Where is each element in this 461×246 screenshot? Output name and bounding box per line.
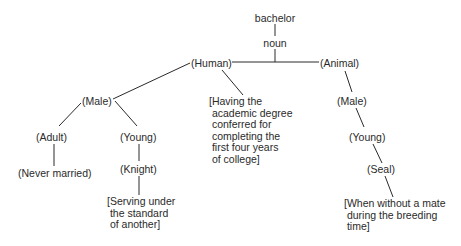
semantic-tree-diagram: bachelor noun (Human) (Animal) (Male) (A… (0, 0, 461, 246)
edge-male-adult (59, 103, 81, 126)
node-noun: noun (263, 37, 286, 49)
edge-male-young (115, 101, 137, 126)
node-never-married: (Never married) (18, 167, 92, 179)
node-human-male: (Male) (82, 95, 112, 107)
gloss-without-mate: [When without a mate during the breeding… (344, 198, 446, 233)
node-seal: (Seal) (367, 163, 395, 175)
edge-animal-male (345, 71, 352, 92)
edge-animal-male-young (356, 108, 364, 127)
node-animal: (Animal) (320, 57, 359, 69)
edge-human-having (222, 70, 243, 95)
node-human-young: (Young) (120, 131, 156, 143)
node-adult: (Adult) (36, 131, 67, 143)
gloss-serving: [Serving under the standard of another] (107, 196, 175, 231)
node-bachelor: bachelor (255, 12, 295, 24)
edge-young-seal (373, 144, 382, 163)
node-animal-male: (Male) (337, 95, 367, 107)
node-knight: (Knight) (120, 163, 157, 175)
gloss-academic-degree: [Having the academic degree conferred fo… (209, 96, 292, 166)
node-animal-young: (Young) (349, 131, 385, 143)
edge-seal-gloss (385, 176, 393, 197)
node-human: (Human) (191, 57, 232, 69)
edge-human-male (113, 63, 190, 99)
